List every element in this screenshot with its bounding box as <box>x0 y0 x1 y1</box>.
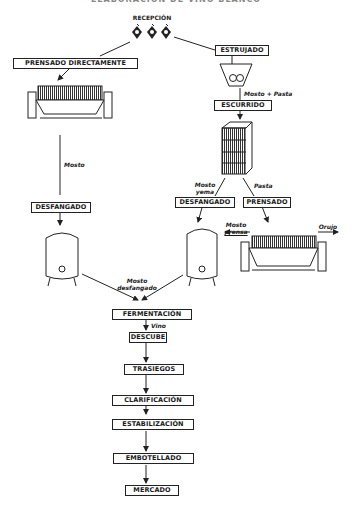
press-icon <box>28 86 112 118</box>
grape-cluster-icon <box>132 24 171 39</box>
node-mercado: MERCADO <box>125 485 179 496</box>
node-estrujado: ESTRUJADO <box>215 45 269 56</box>
node-fermentacion: FERMENTACIÓN <box>112 309 192 320</box>
drainer-tank-icon <box>222 122 252 174</box>
label-mosto-pasta: Mosto + Pasta <box>244 90 308 97</box>
flow-lines <box>0 0 352 516</box>
node-clarificacion: CLARIFICACIÓN <box>112 395 194 406</box>
node-escurrido: ESCURRIDO <box>214 100 272 111</box>
node-descube: DESCUBE <box>129 332 167 343</box>
label-mosto: Mosto <box>64 161 85 168</box>
label-orujo: Orujo <box>315 223 341 230</box>
node-estabilizacion: ESTABILIZACIÓN <box>112 419 194 430</box>
crusher-hopper-icon <box>220 64 252 86</box>
label-mosto-prensa-2: prensa <box>222 228 250 235</box>
label-pasta: Pasta <box>254 182 273 189</box>
label-mosto-desfangado-1: Mosto <box>112 277 162 284</box>
node-recepcion: RECEPCIÓN <box>122 14 182 21</box>
settling-tank-icon <box>46 233 78 286</box>
node-desfangado-left: DESFANGADO <box>31 202 91 213</box>
label-mosto-yema-1: Mosto <box>192 181 218 188</box>
label-mosto-desfangado-2: desfangado <box>112 284 162 291</box>
label-vino: Vino <box>151 322 166 329</box>
node-embotellado: EMBOTELLADO <box>113 453 194 464</box>
label-mosto-yema-2: yema <box>192 188 218 195</box>
node-trasiegos: TRASIEGOS <box>124 364 184 375</box>
settling-tank-icon <box>187 229 217 286</box>
node-prensado: PRENSADO <box>243 197 291 208</box>
press-icon <box>241 236 326 271</box>
node-prensado-directamente: PRENSADO DIRECTAMENTE <box>13 58 138 69</box>
node-desfangado-right: DESFANGADO <box>175 197 235 208</box>
label-mosto-prensa-1: Mosto <box>222 221 250 228</box>
